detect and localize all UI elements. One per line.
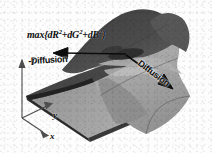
axis-label-I: I <box>31 57 35 67</box>
annotation-arrows <box>0 0 212 153</box>
figure-container: max{dR2+dG2+dB2} -Diffusion Diffusion I … <box>0 0 212 153</box>
axis-label-y: y <box>53 110 57 120</box>
negative-diffusion-arrow-shaft <box>62 53 126 54</box>
max-color-difference-formula: max{dR2+dG2+dB2} <box>27 28 105 40</box>
axis-label-x: x <box>50 131 55 141</box>
